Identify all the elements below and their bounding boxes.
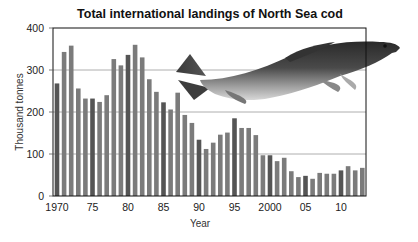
y-axis-label: Thousand tonnes: [14, 73, 25, 150]
bar-1986: [168, 109, 173, 196]
bar-1977: [104, 95, 109, 196]
bar-2005: [303, 176, 308, 196]
bar-1989: [190, 123, 195, 196]
bar-1992: [211, 143, 216, 196]
bar-2008: [325, 174, 330, 196]
chart-title: Total international landings of North Se…: [77, 7, 343, 21]
x-tick-label: 90: [193, 201, 205, 213]
bar-1987: [175, 93, 180, 196]
bar-1998: [254, 135, 259, 196]
bar-1982: [140, 57, 145, 196]
bar-1980: [126, 55, 131, 196]
x-tick-label: 10: [335, 201, 347, 213]
bar-2001: [275, 161, 280, 196]
bar-1995: [232, 118, 237, 196]
x-axis: 1970758085909520000510: [45, 201, 347, 213]
bar-1970: [55, 83, 60, 196]
bar-1994: [225, 133, 230, 196]
x-tick-label: 80: [122, 201, 134, 213]
x-tick-label: 2000: [258, 201, 282, 213]
bar-1983: [147, 79, 152, 196]
y-tick-label: 200: [26, 106, 44, 118]
bar-1993: [218, 135, 223, 196]
bar-1974: [83, 99, 88, 196]
bar-2000: [268, 155, 273, 196]
y-tick-label: 300: [26, 64, 44, 76]
y-tick-label: 100: [26, 148, 44, 160]
x-tick-label: 05: [300, 201, 312, 213]
x-tick-label: 1970: [45, 201, 69, 213]
bar-1978: [112, 59, 117, 196]
bar-2010: [339, 170, 344, 196]
bar-1984: [154, 92, 159, 196]
bar-1981: [133, 45, 138, 196]
bar-1972: [69, 46, 74, 196]
x-axis-label: Year: [190, 218, 211, 229]
y-tick-label: 0: [38, 190, 44, 202]
bar-2013: [360, 168, 365, 196]
bar-1973: [76, 88, 81, 196]
bar-2007: [317, 173, 322, 196]
bar-2011: [346, 166, 351, 196]
bar-1988: [183, 115, 188, 196]
bar-1996: [239, 128, 244, 196]
bar-1990: [197, 140, 202, 196]
bar-2009: [332, 174, 337, 196]
bar-1985: [161, 102, 166, 196]
bar-1975: [90, 99, 95, 196]
bar-2002: [282, 158, 287, 196]
bar-1999: [261, 155, 266, 196]
y-tick-label: 400: [26, 22, 44, 34]
bar-2012: [353, 170, 358, 196]
y-axis: 0100200300400: [26, 22, 53, 202]
bar-1991: [204, 149, 209, 196]
bar-1997: [246, 128, 251, 196]
bar-2004: [296, 177, 301, 196]
cod-landings-chart: Total international landings of North Se…: [0, 0, 418, 242]
x-tick-label: 75: [87, 201, 99, 213]
x-tick-label: 95: [229, 201, 241, 213]
bar-1971: [62, 52, 67, 196]
bar-2006: [310, 179, 315, 196]
bar-2003: [289, 171, 294, 196]
bar-1979: [119, 65, 124, 196]
x-tick-label: 85: [158, 201, 170, 213]
bar-1976: [97, 102, 102, 196]
